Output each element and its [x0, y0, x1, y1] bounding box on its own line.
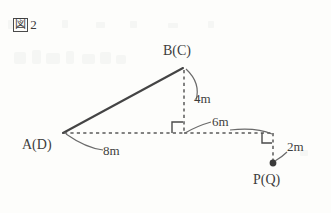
measure-label-run: 6m	[212, 115, 229, 128]
measure-label-base: 8m	[103, 144, 120, 157]
figure-caption-number: 2	[30, 17, 37, 33]
leader-arc-6m	[185, 122, 211, 133]
edge-a-to-b	[63, 68, 183, 133]
leader-arc-8m	[66, 134, 103, 150]
figure-caption-kanji: 図	[13, 18, 28, 32]
figure-diagram: 図 2 B(C) A(D) P(Q) 4m 6m 8m 2m	[0, 0, 331, 213]
diagram-linework	[0, 0, 331, 213]
leader-arc-2m	[275, 152, 287, 161]
right-angle-marker-foot	[172, 122, 183, 133]
measure-label-drop: 2m	[287, 140, 304, 153]
measure-label-height: 4m	[194, 92, 211, 105]
right-angle-marker-drop	[262, 133, 272, 143]
figure-caption: 図 2	[13, 17, 37, 33]
vertex-label-b: B(C)	[163, 44, 191, 58]
vertex-label-p: P(Q)	[253, 173, 280, 187]
vertex-label-a: A(D)	[22, 138, 52, 152]
